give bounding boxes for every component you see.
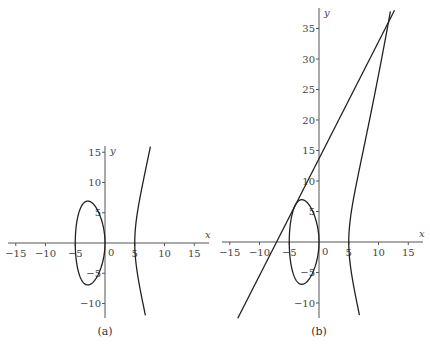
origin-label: 0 bbox=[322, 246, 328, 257]
y-tick-label: 10 bbox=[302, 176, 315, 187]
y-tick-label: −10 bbox=[294, 298, 315, 309]
x-tick-label: 15 bbox=[402, 247, 415, 258]
y-tick-label: 15 bbox=[302, 145, 315, 156]
x-tick-label: −15 bbox=[5, 248, 26, 259]
y-axis-label: y bbox=[109, 145, 116, 156]
x-tick-label: −15 bbox=[219, 247, 240, 258]
curve-unbounded-branch bbox=[349, 11, 391, 315]
y-tick-label: 30 bbox=[302, 54, 315, 65]
figure: −15−10−5051015−10−551015xy(a)−15−10−5051… bbox=[0, 0, 430, 347]
y-axis-label: y bbox=[323, 7, 330, 18]
x-tick-label: 10 bbox=[158, 248, 171, 259]
origin-label: 0 bbox=[108, 247, 114, 258]
panel-a: −15−10−5051015−10−551015xy(a) bbox=[5, 145, 211, 338]
y-tick-label: −10 bbox=[80, 298, 101, 309]
y-tick-label: 15 bbox=[88, 147, 101, 158]
y-tick-label: 35 bbox=[302, 23, 315, 34]
panel-caption: (b) bbox=[311, 325, 327, 338]
panel-b: −15−10−5051015−10−55101520253035xy(b) bbox=[219, 7, 425, 338]
y-tick-label: 10 bbox=[88, 177, 101, 188]
x-tick-label: 10 bbox=[372, 247, 385, 258]
curve-unbounded-branch bbox=[135, 147, 151, 316]
y-tick-label: 20 bbox=[302, 115, 315, 126]
y-tick-label: 25 bbox=[302, 84, 315, 95]
x-tick-label: −10 bbox=[35, 248, 56, 259]
x-axis-label: x bbox=[419, 228, 425, 239]
x-tick-label: 15 bbox=[188, 248, 201, 259]
x-tick-label: −10 bbox=[249, 247, 270, 258]
panel-caption: (a) bbox=[97, 325, 112, 338]
x-axis-label: x bbox=[205, 229, 211, 240]
